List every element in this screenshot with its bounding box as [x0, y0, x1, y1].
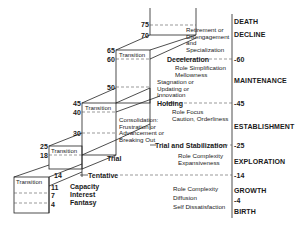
substage-trial-stabilization: Trial and Stabilization [155, 142, 227, 149]
transition-label-decline: Transition [119, 52, 145, 58]
stage-establishment: ESTABLISHMENT [234, 123, 294, 130]
age-45: 45 [73, 100, 81, 107]
substage-role-focus: Role Focus Caution, Orderliness [172, 109, 228, 122]
substage-trial: Trial [107, 155, 121, 162]
axis-tick-45: -45 [234, 100, 244, 107]
age-70: 70 [141, 32, 149, 39]
age-50: 50 [107, 84, 115, 91]
transition-label-exploration: Transition [51, 148, 77, 154]
age-25: 25 [40, 143, 48, 150]
stage-growth: GROWTH [234, 187, 266, 194]
substage-capacity: Capacity [70, 183, 99, 190]
substage-role-complexity-expansiveness: Role Complexity Expansiveness [178, 153, 223, 166]
substage-stagnation: Stagnation or Updating or Innovation [157, 79, 194, 99]
transition-label-growth: Transition [16, 179, 42, 185]
substage-fantasy: Fantasy [70, 199, 96, 206]
axis-tick-60: -60 [234, 56, 244, 63]
substage-retirement: Retirement or Disengagement and Speciali… [186, 27, 229, 53]
axis-tick-14: -14 [234, 172, 244, 179]
axis-tick-25: -25 [234, 142, 244, 149]
age-7: 7 [51, 192, 55, 199]
age-60: 60 [107, 56, 115, 63]
stage-birth: BIRTH [234, 208, 256, 215]
age-75: 75 [141, 21, 149, 28]
substage-role-simplification: Role Simplification Mellowness [175, 65, 226, 78]
age-14: 14 [54, 172, 62, 179]
stage-exploration: EXPLORATION [234, 158, 285, 165]
age-18: 18 [40, 152, 48, 159]
transition-label-establishment: Transition [85, 105, 111, 111]
substage-consolidation: Consolidation: Frustration or Advancemen… [119, 117, 164, 143]
age-30: 30 [73, 130, 81, 137]
substage-role-complexity-growth: Role Complexity Diffusion Self Dissatisf… [173, 184, 225, 211]
substage-holding: Holding [157, 100, 183, 107]
stage-decline: DECLINE [234, 31, 265, 38]
stage-maintenance: MAINTENANCE [234, 77, 287, 84]
substage-tentative: Tentative [88, 172, 118, 179]
substage-interest: Interest [70, 191, 95, 198]
stage-death: DEATH [234, 18, 258, 25]
age-4: 4 [51, 201, 55, 208]
age-65: 65 [107, 47, 115, 54]
axis-tick-4: -4 [234, 197, 240, 204]
age-40: 40 [73, 109, 81, 116]
substage-deceleration: Deceleration [167, 56, 209, 63]
age-11: 11 [51, 184, 58, 191]
